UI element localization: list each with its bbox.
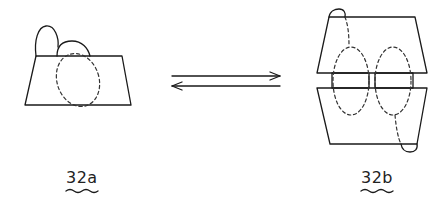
- wavy-underline-32b: [361, 190, 393, 193]
- dashed-strand-top: [345, 17, 349, 46]
- lower-trapezoid-32b: [317, 88, 427, 144]
- dashed-loop-right-32b: [375, 47, 411, 115]
- wavy-underline-32a: [66, 190, 98, 193]
- figure-32b: [317, 9, 427, 152]
- label-32a: 32a: [66, 168, 98, 187]
- left-connector-bar: [332, 73, 369, 88]
- bottom-arch-32b: [401, 144, 417, 152]
- dashed-strand-bottom: [395, 115, 401, 144]
- large-arch-32a: [35, 26, 58, 56]
- dashed-loop-32a: [50, 48, 107, 112]
- top-arch-32b: [329, 9, 345, 17]
- upper-trapezoid-32b: [317, 17, 427, 73]
- label-32b: 32b: [361, 168, 393, 187]
- dashed-loop-left-32b: [333, 47, 369, 115]
- trapezoid-32a: [25, 56, 131, 105]
- right-connector-bar: [375, 73, 413, 88]
- figure-32a: [25, 26, 131, 112]
- equilibrium-arrows: [172, 72, 280, 90]
